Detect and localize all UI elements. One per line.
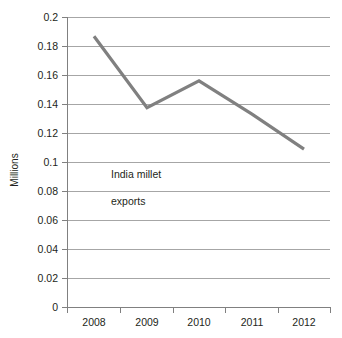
y-tick-label: 0.2 [43,11,58,23]
annotation-line-1: India millet [111,168,161,180]
y-tick-label: 0.16 [38,69,59,81]
y-tick-label: 0.14 [38,98,59,110]
y-axis-title: Millions [9,153,20,186]
x-tick-label: 2011 [241,316,264,328]
y-tick-label: 0 [52,301,58,313]
y-axis-tick-labels: 0.2 0.18 0.16 0.14 0.12 0.1 0.08 0.06 0.… [38,11,59,313]
y-tick-label: 0.18 [38,40,59,52]
annotation-line-2: exports [111,195,145,207]
line-chart: 0.2 0.18 0.16 0.14 0.12 0.1 0.08 0.06 0.… [0,0,342,338]
x-tick-label: 2009 [135,316,159,328]
y-tick-label: 0.02 [38,272,59,284]
y-tick-label: 0.12 [38,127,59,139]
x-tick-label: 2008 [82,316,106,328]
y-tick-label: 0.04 [38,243,59,255]
y-axis-ticks [62,18,67,308]
chart-canvas: 0.2 0.18 0.16 0.14 0.12 0.1 0.08 0.06 0.… [0,0,342,338]
x-axis-tick-labels: 2008 2009 2010 2011 2012 [82,316,316,328]
x-tick-label: 2010 [187,316,211,328]
x-tick-label: 2012 [292,316,316,328]
y-tick-label: 0.08 [38,185,59,197]
y-tick-label: 0.1 [43,156,58,168]
y-tick-label: 0.06 [38,214,59,226]
